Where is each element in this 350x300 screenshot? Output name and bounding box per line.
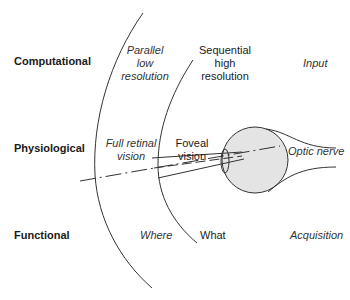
eye-computational-label: Input <box>303 57 327 70</box>
row-label-physiological: Physiological <box>14 142 85 155</box>
inner-physiological-label: Foveal vision <box>175 137 208 163</box>
eye-physiological-label: Optic nerve <box>288 145 344 158</box>
eye-functional-label: Acquisition <box>290 229 343 242</box>
row-label-computational: Computational <box>14 55 91 68</box>
inner-computational-label: Sequential high resolution <box>199 44 251 83</box>
row-label-functional: Functional <box>14 229 70 242</box>
outer-functional-label: Where <box>140 229 172 242</box>
outer-computational-label: Parallel low resolution <box>121 44 169 83</box>
eyeball <box>222 127 288 193</box>
outer-physiological-label: Full retinal vision <box>106 137 157 163</box>
inner-functional-label: What <box>200 229 226 242</box>
